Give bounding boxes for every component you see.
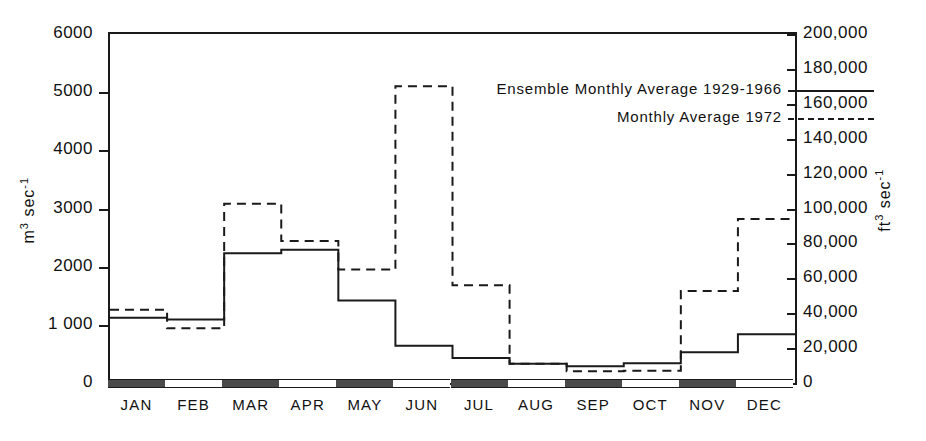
y-label-right-4: 80,000	[803, 232, 858, 252]
y-tick-left-1	[99, 325, 108, 327]
month-band-segment	[736, 379, 793, 388]
x-axis-label-jul: JUL	[450, 396, 508, 413]
y-axis-left-title-exp2: -1	[18, 177, 30, 189]
legend-swatch-dashed	[788, 118, 874, 120]
y-tick-left-3	[99, 209, 108, 211]
y-label-right-9: 180,000	[803, 58, 868, 78]
y-label-right-10: 200,000	[803, 23, 868, 43]
x-axis-label-dec: DEC	[735, 396, 793, 413]
month-band-segment	[565, 379, 622, 388]
y-tick-right-5	[787, 209, 797, 211]
y-tick-right-10	[787, 34, 797, 36]
y-label-right-1: 20,000	[803, 337, 858, 357]
x-axis-label-jun: JUN	[393, 396, 451, 413]
month-band-segment	[393, 379, 450, 388]
y-label-left-1: 1 000	[0, 314, 93, 334]
y-label-right-6: 120,000	[803, 163, 868, 183]
chart-page: m3 sec-1 ft3 sec-1 Ensemble Monthly Aver…	[0, 0, 926, 441]
x-axis-label-jan: JAN	[108, 396, 166, 413]
legend-label-1: Ensemble Monthly Average 1929-1966	[497, 80, 782, 97]
month-band-segment	[508, 379, 565, 388]
y-tick-right-2	[787, 313, 797, 315]
y-label-right-5: 100,000	[803, 198, 868, 218]
y-tick-right-8	[787, 104, 797, 106]
month-band-segment	[336, 379, 393, 388]
y-axis-left-title-base: m	[20, 229, 37, 243]
legend-label-2: Monthly Average 1972	[617, 108, 782, 125]
x-axis-label-oct: OCT	[621, 396, 679, 413]
y-axis-left-title-exp1: 3	[18, 222, 30, 229]
y-axis-right-title: ft3 sec-1	[873, 169, 893, 232]
x-axis-label-may: MAY	[336, 396, 394, 413]
y-axis-right-title-exp2: -1	[873, 169, 885, 181]
x-axis-label-nov: NOV	[678, 396, 736, 413]
y-tick-left-4	[99, 150, 108, 152]
month-band-segment	[108, 379, 165, 388]
y-tick-right-6	[787, 174, 797, 176]
y-label-left-2: 2000	[0, 256, 93, 276]
y-axis-right-title-mid: sec	[876, 180, 893, 213]
plot-area: Ensemble Monthly Average 1929-1966Monthl…	[108, 32, 797, 385]
y-tick-right-3	[787, 278, 797, 280]
y-axis-right-title-base: ft	[876, 221, 893, 232]
y-label-right-0: 0	[803, 372, 813, 392]
month-band-strip	[108, 379, 797, 388]
y-label-left-4: 4000	[0, 139, 93, 159]
month-band-segment	[451, 379, 508, 388]
y-label-left-5: 5000	[0, 81, 93, 101]
y-tick-right-4	[787, 243, 797, 245]
y-tick-left-2	[99, 267, 108, 269]
month-band-segment	[279, 379, 336, 388]
month-band-segment	[165, 379, 222, 388]
legend-swatch-solid	[788, 90, 874, 92]
x-axis-label-mar: MAR	[222, 396, 280, 413]
month-band-segment	[222, 379, 279, 388]
y-label-right-7: 140,000	[803, 128, 868, 148]
y-label-right-3: 60,000	[803, 267, 858, 287]
x-axis-label-sep: SEP	[564, 396, 622, 413]
y-tick-right-1	[787, 348, 797, 350]
x-axis-label-aug: AUG	[507, 396, 565, 413]
y-tick-left-5	[99, 92, 108, 94]
month-band-segment	[679, 379, 736, 388]
x-axis-label-apr: APR	[279, 396, 337, 413]
y-tick-right-9	[787, 69, 797, 71]
y-axis-right-title-exp1: 3	[873, 214, 885, 221]
y-label-right-2: 40,000	[803, 302, 858, 322]
y-label-left-3: 3000	[0, 198, 93, 218]
y-label-right-8: 160,000	[803, 93, 868, 113]
x-axis-label-feb: FEB	[165, 396, 223, 413]
month-band-segment	[622, 379, 679, 388]
y-tick-right-7	[787, 139, 797, 141]
y-label-left-6: 6000	[0, 23, 93, 43]
y-label-left-0: 0	[0, 372, 93, 392]
